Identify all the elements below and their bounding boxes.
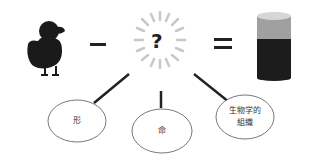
question-mark: ? bbox=[151, 29, 163, 53]
node-life-label: 命 bbox=[152, 125, 172, 136]
connector-lines bbox=[94, 74, 229, 108]
minus-icon bbox=[90, 43, 106, 46]
node-shape-label: 形 bbox=[67, 115, 87, 126]
node-bio-tissue-label-line2: 組織 bbox=[220, 117, 270, 128]
node-bio-tissue-label-line1: 生物学的 bbox=[220, 105, 270, 116]
diagram-canvas: ? 形 命 生物学的 組織 bbox=[0, 0, 310, 159]
cylinder-icon bbox=[257, 12, 291, 81]
duck-icon bbox=[27, 21, 65, 76]
equals-icon bbox=[214, 38, 232, 49]
